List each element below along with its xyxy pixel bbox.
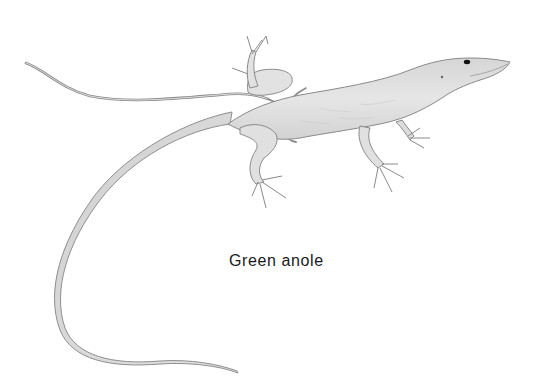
eye xyxy=(464,60,470,64)
caption: Green anole xyxy=(229,252,324,270)
green-anole-illustration xyxy=(0,0,548,387)
far-front-leg xyxy=(396,120,430,148)
tail xyxy=(55,112,239,373)
figure: Green anole xyxy=(0,0,548,387)
raised-hind-leg xyxy=(232,36,292,95)
front-leg xyxy=(359,126,404,192)
